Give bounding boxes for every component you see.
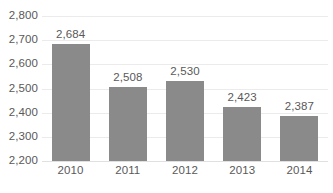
bar[interactable] bbox=[166, 81, 204, 161]
y-axis: 2,8002,7002,6002,5002,4002,3002,200 bbox=[0, 16, 38, 161]
x-axis-tick-label: 2011 bbox=[99, 164, 156, 177]
bar[interactable] bbox=[109, 87, 147, 161]
y-axis-tick-label: 2,700 bbox=[0, 34, 38, 46]
axis-baseline bbox=[42, 161, 328, 162]
bar-value-label: 2,508 bbox=[113, 72, 142, 84]
y-axis-tick-label: 2,400 bbox=[0, 107, 38, 119]
y-axis-tick-label: 2,800 bbox=[0, 10, 38, 22]
y-axis-tick-label: 2,500 bbox=[0, 83, 38, 95]
x-axis-tick-label: 2014 bbox=[271, 164, 328, 177]
y-axis-tick-label: 2,200 bbox=[0, 155, 38, 167]
bar[interactable] bbox=[223, 107, 261, 161]
bar-value-label: 2,530 bbox=[170, 66, 199, 78]
x-axis-tick-label: 2010 bbox=[42, 164, 99, 177]
bar-series: 2,6842,5082,5302,4232,387 bbox=[42, 16, 328, 161]
bar-chart: 2,8002,7002,6002,5002,4002,3002,200 2,68… bbox=[0, 0, 333, 193]
bar-slot: 2,508 bbox=[99, 16, 156, 161]
bar[interactable] bbox=[52, 44, 90, 161]
x-axis-tick-label: 2013 bbox=[214, 164, 271, 177]
bar-slot: 2,530 bbox=[156, 16, 213, 161]
bar-value-label: 2,684 bbox=[56, 29, 85, 41]
y-axis-tick-label: 2,300 bbox=[0, 131, 38, 143]
x-axis-tick-label: 2012 bbox=[156, 164, 213, 177]
bar-slot: 2,387 bbox=[271, 16, 328, 161]
bar[interactable] bbox=[280, 116, 318, 161]
bar-value-label: 2,387 bbox=[285, 101, 314, 113]
bar-value-label: 2,423 bbox=[228, 92, 257, 104]
x-axis: 20102011201220132014 bbox=[42, 164, 328, 184]
bar-slot: 2,684 bbox=[42, 16, 99, 161]
bar-slot: 2,423 bbox=[214, 16, 271, 161]
y-axis-tick-label: 2,600 bbox=[0, 59, 38, 71]
